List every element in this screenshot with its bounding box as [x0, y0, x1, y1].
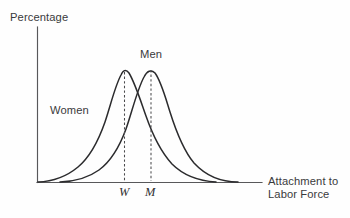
- women-curve-label: Women: [50, 104, 89, 117]
- x-tick-label-women-mean: W: [119, 185, 129, 200]
- men-distribution-curve: [60, 71, 238, 182]
- x-axis-label-line1: Attachment to: [268, 175, 338, 187]
- men-curve-label: Men: [140, 48, 162, 61]
- x-tick-label-men-mean: M: [145, 185, 155, 200]
- x-axis-label: Attachment toLabor Force: [268, 175, 338, 201]
- y-axis-label: Percentage: [10, 11, 68, 24]
- x-axis-label-line2: Labor Force: [268, 188, 329, 200]
- figure-container: Percentage Attachment toLabor Force Wome…: [0, 0, 350, 218]
